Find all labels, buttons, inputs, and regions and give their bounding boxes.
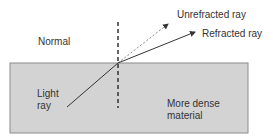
refraction-diagram [0, 0, 273, 140]
unrefracted-ray-label: Unrefracted ray [177, 9, 246, 21]
unrefracted-ray [118, 24, 168, 63]
material-label-line2: material [167, 110, 220, 122]
light-ray-label-line1: Light [37, 88, 59, 100]
light-ray-label: Light ray [37, 88, 59, 112]
material-label-line1: More dense [167, 98, 220, 110]
light-ray-label-line2: ray [37, 100, 59, 112]
normal-label: Normal [38, 36, 70, 48]
material-label: More dense material [167, 98, 220, 122]
refracted-ray [118, 32, 195, 63]
refracted-ray-label: Refracted ray [202, 28, 262, 40]
